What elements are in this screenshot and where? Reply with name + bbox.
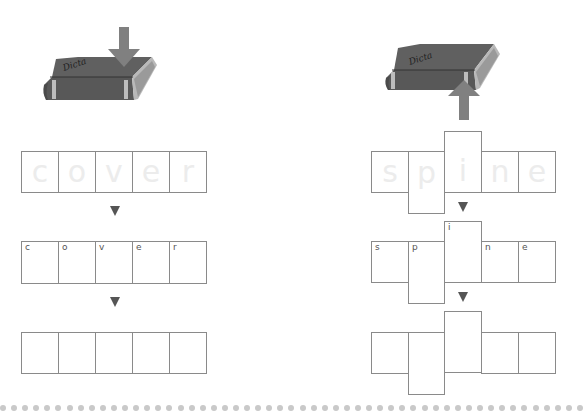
hint-cell[interactable]: i: [444, 221, 482, 283]
divider-dot: [44, 405, 50, 411]
divider-dot: [399, 405, 405, 411]
hint-cell[interactable]: p: [408, 241, 445, 304]
divider-dot: [67, 405, 73, 411]
divider-dot: [510, 405, 516, 411]
divider-dot: [200, 405, 206, 411]
trace-cell[interactable]: p: [408, 151, 445, 214]
divider-dot: [433, 405, 439, 411]
hint-cell[interactable]: v: [95, 241, 133, 284]
divider-dot: [211, 405, 217, 411]
book-illustration-right: Dicta: [384, 40, 502, 94]
hint-cell[interactable]: c: [21, 241, 59, 284]
down-triangle-icon: [110, 297, 120, 307]
down-triangle-icon: [458, 292, 468, 302]
divider-dot: [344, 405, 350, 411]
divider-dot: [455, 405, 461, 411]
divider-dot: [78, 405, 84, 411]
divider-dot: [0, 405, 6, 411]
divider-dot: [377, 405, 383, 411]
trace-cell[interactable]: c: [21, 151, 59, 193]
divider-dot: [322, 405, 328, 411]
hint-cell[interactable]: o: [58, 241, 96, 284]
blank-cell[interactable]: [371, 332, 409, 374]
divider-dot: [266, 405, 272, 411]
divider-dot: [33, 405, 39, 411]
divider-dot: [244, 405, 250, 411]
trace-cell[interactable]: r: [169, 151, 207, 193]
blank-cell[interactable]: [21, 332, 59, 374]
divider-dot: [499, 405, 505, 411]
divider-dot: [300, 405, 306, 411]
dotted-divider: [0, 405, 578, 413]
divider-dot: [178, 405, 184, 411]
divider-dot: [144, 405, 150, 411]
blank-cell[interactable]: [481, 332, 519, 374]
hint-cell[interactable]: n: [481, 241, 519, 283]
blank-cell[interactable]: [518, 332, 556, 374]
divider-dot: [166, 405, 172, 411]
divider-dot: [311, 405, 317, 411]
divider-dot: [422, 405, 428, 411]
trace-cell[interactable]: v: [95, 151, 133, 193]
divider-dot: [11, 405, 17, 411]
trace-cell[interactable]: o: [58, 151, 96, 193]
blank-cell[interactable]: [169, 332, 207, 374]
divider-dot: [22, 405, 28, 411]
divider-dot: [577, 405, 583, 411]
trace-cell[interactable]: n: [481, 151, 519, 193]
divider-dot: [366, 405, 372, 411]
divider-dot: [410, 405, 416, 411]
blank-cell[interactable]: [444, 311, 482, 373]
trace-cell[interactable]: i: [444, 131, 482, 193]
divider-dot: [89, 405, 95, 411]
book-icon: Dicta: [384, 40, 502, 94]
divider-dot: [521, 405, 527, 411]
arrow-up-icon: [448, 80, 480, 126]
hint-cell[interactable]: r: [169, 241, 207, 284]
divider-dot: [277, 405, 283, 411]
blank-cell[interactable]: [408, 332, 445, 395]
divider-dot: [122, 405, 128, 411]
blank-cell[interactable]: [95, 332, 133, 374]
divider-dot: [544, 405, 550, 411]
divider-dot: [111, 405, 117, 411]
divider-dot: [100, 405, 106, 411]
divider-dot: [444, 405, 450, 411]
down-triangle-icon: [458, 202, 468, 212]
divider-dot: [155, 405, 161, 411]
trace-cell[interactable]: e: [132, 151, 170, 193]
down-triangle-icon: [110, 206, 120, 216]
divider-dot: [255, 405, 261, 411]
divider-dot: [133, 405, 139, 411]
divider-dot: [566, 405, 572, 411]
trace-cell[interactable]: s: [371, 151, 409, 193]
divider-dot: [533, 405, 539, 411]
divider-dot: [288, 405, 294, 411]
hint-cell[interactable]: e: [518, 241, 556, 283]
divider-dot: [55, 405, 61, 411]
hint-cell[interactable]: e: [132, 241, 170, 284]
divider-dot: [477, 405, 483, 411]
arrow-down-icon: [108, 27, 144, 75]
divider-dot: [488, 405, 494, 411]
divider-dot: [555, 405, 561, 411]
divider-dot: [222, 405, 228, 411]
divider-dot: [355, 405, 361, 411]
divider-dot: [333, 405, 339, 411]
divider-dot: [233, 405, 239, 411]
divider-dot: [189, 405, 195, 411]
hint-cell[interactable]: s: [371, 241, 409, 283]
trace-cell[interactable]: e: [518, 151, 556, 193]
blank-cell[interactable]: [58, 332, 96, 374]
blank-cell[interactable]: [132, 332, 170, 374]
divider-dot: [388, 405, 394, 411]
divider-dot: [466, 405, 472, 411]
